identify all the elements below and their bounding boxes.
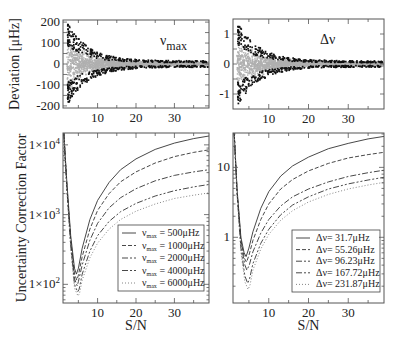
dnu-deviation-plot-area xyxy=(236,26,384,105)
legend-entry: Δν= 31.7μHz xyxy=(316,232,370,243)
x-tick-label: 30 xyxy=(342,305,355,320)
legend-entry: Δν= 231.87μHz xyxy=(316,278,380,289)
y-tick-label: 0 xyxy=(224,56,231,71)
legend-entry: Δν= 167.72μHz xyxy=(316,267,380,278)
y-axis-title-top: Deviation [μHz] xyxy=(7,18,22,110)
y-tick-label: 200 xyxy=(41,14,61,29)
numax-correction-legend: νmax = 500μHzνmax = 1000μHzνmax = 2000μH… xyxy=(118,225,205,291)
y-tick-label: 1×104 xyxy=(29,136,61,152)
x-tick-label: 30 xyxy=(168,110,181,125)
y-tick-label: 10 xyxy=(217,159,230,174)
dnu-correction-panel: Δν= 31.7μHzΔν= 55.26μHzΔν= 96.23μHzΔν= 1… xyxy=(217,133,384,333)
numax-deviation-panel: νmax102030-200-1000100200 xyxy=(36,14,210,125)
x-axis-title: S/N xyxy=(125,318,147,333)
y-tick-label: 1 xyxy=(224,229,231,244)
y-tick-label: 1×102 xyxy=(29,275,60,291)
y-tick-label: -100 xyxy=(36,77,60,92)
dnu-deviation-annotation: Δν xyxy=(320,32,335,47)
legend-entry: Δν= 55.26μHz xyxy=(316,244,375,255)
figure: νmax102030-200-1000100200Δν102030-101νma… xyxy=(0,0,404,343)
numax-deviation-annotation: νmax xyxy=(160,33,187,53)
x-tick-label: 10 xyxy=(262,305,275,320)
x-tick-label: 10 xyxy=(91,110,104,125)
y-tick-label: 1 xyxy=(224,26,231,41)
x-axis-title: S/N xyxy=(298,318,320,333)
x-tick-label: 20 xyxy=(130,110,143,125)
dnu-deviation-panel: Δν102030-101 xyxy=(219,19,385,126)
dnu-correction-legend: Δν= 31.7μHzΔν= 55.26μHzΔν= 96.23μHzΔν= 1… xyxy=(292,230,380,292)
numax-correction-panel: νmax = 500μHzνmax = 1000μHzνmax = 2000μH… xyxy=(29,133,209,333)
y-axis-title-bottom: Uncertainty Correction Factor xyxy=(14,133,29,302)
y-tick-label: 100 xyxy=(41,35,61,50)
y-tick-label: -200 xyxy=(36,98,60,113)
numax-deviation-plot-area xyxy=(66,24,209,103)
x-tick-label: 10 xyxy=(91,305,104,320)
x-tick-label: 30 xyxy=(168,305,181,320)
x-tick-label: 20 xyxy=(302,111,315,126)
x-tick-label: 30 xyxy=(342,111,355,126)
chart-canvas: νmax102030-200-1000100200Δν102030-101νma… xyxy=(0,0,404,343)
x-tick-label: 10 xyxy=(262,111,275,126)
y-tick-label: 1×103 xyxy=(29,206,61,222)
legend-entry: Δν= 96.23μHz xyxy=(316,255,375,266)
y-tick-label: 0 xyxy=(54,56,61,71)
y-tick-label: -1 xyxy=(219,86,230,101)
